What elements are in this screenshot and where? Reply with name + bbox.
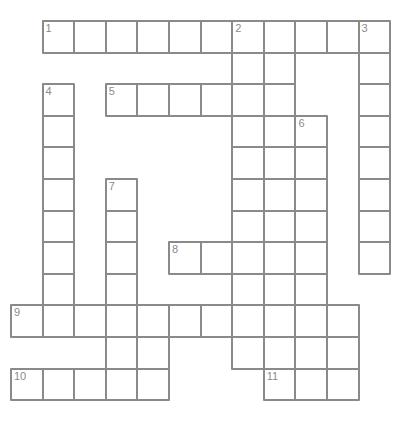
crossword-cell[interactable]: 7 (105, 178, 139, 212)
crossword-clue-number: 7 (109, 180, 115, 193)
crossword-clue-number: 5 (109, 85, 115, 98)
crossword-cell[interactable] (42, 210, 76, 244)
crossword-cell[interactable] (200, 241, 234, 275)
crossword-cell[interactable] (168, 20, 202, 54)
crossword-cell[interactable] (42, 115, 76, 149)
crossword-clue-number: 10 (14, 370, 26, 383)
crossword-cell[interactable] (263, 273, 297, 307)
crossword-cell[interactable] (263, 52, 297, 86)
crossword-clue-number: 3 (362, 22, 368, 35)
crossword-cell[interactable] (294, 273, 328, 307)
crossword-cell[interactable] (136, 83, 170, 117)
crossword-cell[interactable] (263, 20, 297, 54)
crossword-cell[interactable] (231, 336, 265, 370)
crossword-cell[interactable] (358, 83, 392, 117)
crossword-cell[interactable]: 11 (263, 368, 297, 402)
crossword-cell[interactable] (231, 210, 265, 244)
crossword-cell[interactable] (200, 83, 234, 117)
crossword-cell[interactable] (358, 241, 392, 275)
crossword-cell[interactable] (231, 178, 265, 212)
crossword-cell[interactable] (294, 178, 328, 212)
crossword-cell[interactable] (42, 241, 76, 275)
crossword-cell[interactable] (42, 368, 76, 402)
crossword-clue-number: 4 (46, 85, 52, 98)
crossword-cell[interactable] (263, 83, 297, 117)
crossword-cell[interactable]: 5 (105, 83, 139, 117)
crossword-cell[interactable] (105, 210, 139, 244)
crossword-cell[interactable] (326, 304, 360, 338)
crossword-clue-number: 8 (172, 243, 178, 256)
crossword-cell[interactable] (168, 83, 202, 117)
crossword-cell[interactable] (294, 146, 328, 180)
crossword-cell[interactable] (231, 52, 265, 86)
crossword-cell[interactable] (294, 241, 328, 275)
crossword-cell[interactable]: 8 (168, 241, 202, 275)
crossword-cell[interactable] (231, 273, 265, 307)
crossword-cell[interactable] (358, 146, 392, 180)
crossword-cell[interactable]: 4 (42, 83, 76, 117)
crossword-clue-number: 1 (46, 22, 52, 35)
crossword-cell[interactable]: 10 (10, 368, 44, 402)
crossword-clue-number: 9 (14, 306, 20, 319)
crossword-cell[interactable] (326, 20, 360, 54)
crossword-cell[interactable] (105, 241, 139, 275)
crossword-cell[interactable] (73, 304, 107, 338)
crossword-clue-number: 6 (298, 117, 304, 130)
crossword-cell[interactable]: 1 (42, 20, 76, 54)
crossword-cell[interactable] (105, 273, 139, 307)
crossword-cell[interactable] (294, 368, 328, 402)
crossword-cell[interactable] (73, 20, 107, 54)
crossword-cell[interactable] (358, 178, 392, 212)
crossword-cell[interactable] (294, 336, 328, 370)
crossword-cell[interactable] (136, 336, 170, 370)
crossword-cell[interactable] (105, 368, 139, 402)
crossword-cell[interactable] (294, 304, 328, 338)
crossword-cell[interactable] (326, 336, 360, 370)
crossword-cell[interactable] (263, 336, 297, 370)
crossword-cell[interactable]: 6 (294, 115, 328, 149)
crossword-clue-number: 11 (267, 370, 278, 383)
crossword-cell[interactable] (231, 83, 265, 117)
crossword-cell[interactable]: 9 (10, 304, 44, 338)
crossword-cell[interactable]: 2 (231, 20, 265, 54)
crossword-cell[interactable] (200, 304, 234, 338)
crossword-cell[interactable] (105, 336, 139, 370)
crossword-cell[interactable] (200, 20, 234, 54)
crossword-cell[interactable] (263, 304, 297, 338)
crossword-cell[interactable] (42, 146, 76, 180)
crossword-cell[interactable] (42, 304, 76, 338)
crossword-cell[interactable] (42, 178, 76, 212)
crossword-cell[interactable] (263, 146, 297, 180)
crossword-cell[interactable] (136, 20, 170, 54)
crossword-cell[interactable] (105, 20, 139, 54)
crossword-cell[interactable] (231, 304, 265, 338)
crossword-cell[interactable] (136, 368, 170, 402)
crossword-cell[interactable] (294, 210, 328, 244)
crossword-cell[interactable] (263, 241, 297, 275)
crossword-cell[interactable] (263, 115, 297, 149)
crossword-cell[interactable] (326, 368, 360, 402)
crossword-cell[interactable] (73, 368, 107, 402)
crossword-cell[interactable] (263, 210, 297, 244)
crossword-grid: 1234567891011 (0, 0, 410, 432)
crossword-cell[interactable] (231, 241, 265, 275)
crossword-cell[interactable] (136, 304, 170, 338)
crossword-cell[interactable] (358, 210, 392, 244)
crossword-cell[interactable] (231, 115, 265, 149)
crossword-cell[interactable] (294, 20, 328, 54)
crossword-cell[interactable] (105, 304, 139, 338)
crossword-cell[interactable]: 3 (358, 20, 392, 54)
crossword-cell[interactable] (358, 52, 392, 86)
crossword-cell[interactable] (168, 304, 202, 338)
crossword-cell[interactable] (231, 146, 265, 180)
crossword-cell[interactable] (42, 273, 76, 307)
crossword-cell[interactable] (358, 115, 392, 149)
crossword-cell[interactable] (263, 178, 297, 212)
crossword-clue-number: 2 (235, 22, 241, 35)
